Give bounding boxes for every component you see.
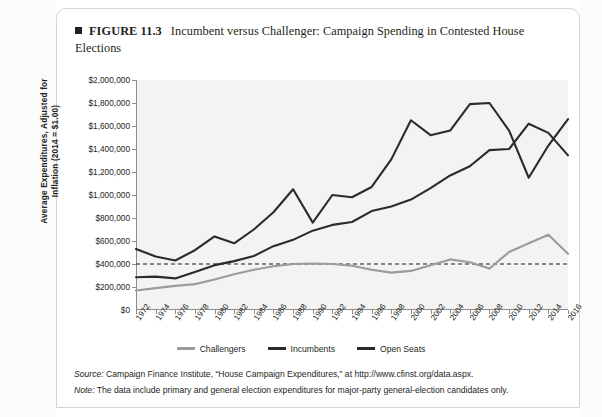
- y-axis-tick-mark: [132, 80, 136, 81]
- note-label: Note:: [74, 385, 95, 395]
- legend-swatch-icon: [357, 347, 375, 350]
- y-axis-tick-mark: [132, 287, 136, 288]
- x-axis-tick-label: 1984: [252, 302, 270, 322]
- x-axis-tick-label: 2000: [409, 302, 427, 322]
- y-axis-tick-mark: [132, 103, 136, 104]
- note-text: The data include primary and general ele…: [95, 385, 509, 395]
- legend-item-challengers[interactable]: Challengers: [177, 344, 246, 354]
- y-axis-tick-label: $1,400,000: [64, 144, 130, 154]
- y-axis-tick-label: $2,000,000: [64, 75, 130, 85]
- x-axis-tick-label: 2010: [507, 302, 525, 322]
- legend-label: Challengers: [200, 344, 246, 354]
- y-axis-tick-mark: [132, 264, 136, 265]
- x-axis-tick-label: 1982: [232, 302, 250, 322]
- figure-footnotes: Source: Campaign Finance Institute, “Hou…: [74, 366, 544, 398]
- x-axis-tick-label: 1978: [193, 302, 211, 322]
- x-axis-tick-label: 1980: [213, 302, 231, 322]
- y-axis-tick-label: $1,800,000: [64, 98, 130, 108]
- x-axis-tick-label: 1998: [389, 302, 407, 322]
- x-axis-tick-label: 1976: [173, 302, 191, 322]
- y-axis-tick-label: $400,000: [64, 259, 130, 269]
- source-text: Campaign Finance Institute, “House Campa…: [104, 369, 474, 379]
- y-axis-tick-label: $1,200,000: [64, 167, 130, 177]
- x-axis-tick-label: 2012: [527, 302, 545, 322]
- x-axis-tick-label: 2002: [429, 302, 447, 322]
- y-axis-tick-mark: [132, 172, 136, 173]
- y-axis-tick-mark: [132, 218, 136, 219]
- legend-swatch-icon: [177, 347, 195, 350]
- y-axis-tick-mark: [132, 126, 136, 127]
- x-axis-tick-label: 2006: [468, 302, 486, 322]
- note-line: Note: The data include primary and gener…: [74, 382, 544, 398]
- legend-swatch-icon: [268, 347, 286, 350]
- x-axis-tick-label: 1972: [134, 302, 152, 322]
- x-axis-tick-label: 2014: [546, 302, 564, 322]
- y-axis-tick-label: $0: [64, 305, 130, 315]
- axis-layer: $0$200,000$400,000$600,000$800,000$1,000…: [0, 0, 602, 417]
- x-axis-tick-label: 2004: [448, 302, 466, 322]
- x-axis-tick-label: 1990: [311, 302, 329, 322]
- y-axis-tick-label: $800,000: [64, 213, 130, 223]
- x-axis-tick-label: 1986: [271, 302, 289, 322]
- x-axis-tick-label: 1996: [370, 302, 388, 322]
- x-axis-tick-label: 1992: [330, 302, 348, 322]
- x-axis-tick-label: 1994: [350, 302, 368, 322]
- legend-label: Incumbents: [291, 344, 335, 354]
- legend-item-incumbents[interactable]: Incumbents: [268, 344, 335, 354]
- y-axis-tick-mark: [132, 195, 136, 196]
- y-axis-tick-label: $1,600,000: [64, 121, 130, 131]
- y-axis-tick-mark: [132, 241, 136, 242]
- y-axis-tick-label: $1,000,000: [64, 190, 130, 200]
- x-axis-tick-label: 2008: [487, 302, 505, 322]
- chart-legend: ChallengersIncumbentsOpen Seats: [0, 344, 602, 354]
- y-axis-tick-label: $600,000: [64, 236, 130, 246]
- legend-label: Open Seats: [380, 344, 425, 354]
- source-line: Source: Campaign Finance Institute, “Hou…: [74, 366, 544, 382]
- x-axis-tick-label: 1988: [291, 302, 309, 322]
- legend-item-open-seats[interactable]: Open Seats: [357, 344, 425, 354]
- y-axis-tick-mark: [132, 149, 136, 150]
- chart: Average Expenditures, Adjusted for Infla…: [0, 0, 602, 417]
- source-label: Source:: [74, 369, 104, 379]
- y-axis-tick-label: $200,000: [64, 282, 130, 292]
- x-axis-tick-label: 1974: [154, 302, 172, 322]
- x-axis-tick-label: 2016: [566, 302, 584, 322]
